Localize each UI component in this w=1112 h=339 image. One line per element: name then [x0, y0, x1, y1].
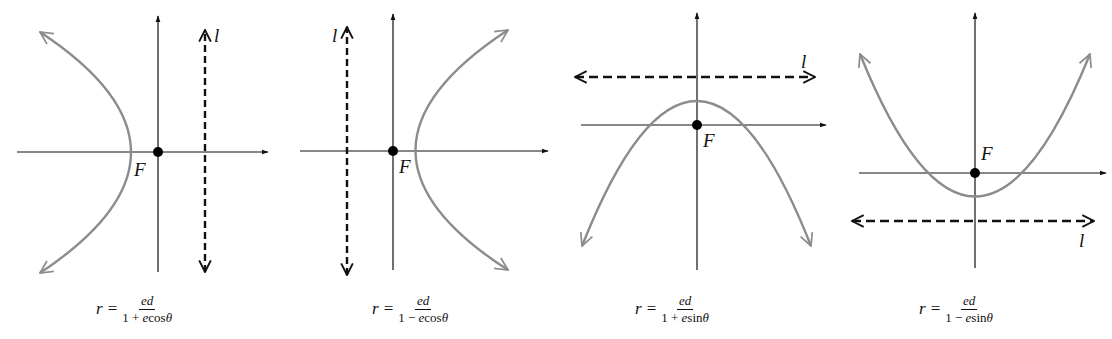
den-function: cos [424, 310, 441, 325]
panel-3: F l [575, 13, 826, 270]
formula-denominator: 1 + ecosθ [122, 310, 172, 325]
formula-lhs: r [372, 299, 379, 319]
den-constant: 1 − [398, 310, 418, 325]
directrix-label: l [214, 25, 219, 46]
formula-equals: = [931, 299, 941, 319]
formula-numerator: ed [677, 294, 693, 310]
formula-equals: = [384, 299, 394, 319]
formula-lhs: r [96, 299, 103, 319]
parabola-curve [416, 30, 509, 270]
focus-label: F [980, 143, 993, 164]
den-constant: 1 − [945, 310, 965, 325]
directrix-label: l [801, 51, 806, 72]
focus-point [388, 146, 398, 156]
den-angle: θ [703, 310, 709, 325]
den-function: cos [148, 310, 165, 325]
formula-lhs: r [919, 299, 926, 319]
formula-panel-2: r = ed 1 − ecosθ [372, 294, 448, 324]
focus-label: F [702, 130, 715, 151]
den-function: sin [971, 310, 986, 325]
panel-2: F l [300, 14, 548, 275]
formula-panel-4: r = ed 1 − esinθ [919, 294, 993, 324]
formula-denominator: 1 + esinθ [661, 310, 709, 325]
formula-equals: = [647, 299, 657, 319]
formula-fraction: ed 1 + ecosθ [122, 294, 172, 324]
den-constant: 1 + [122, 310, 142, 325]
den-angle: θ [442, 310, 448, 325]
focus-label: F [398, 156, 411, 177]
formula-panel-3: r = ed 1 + esinθ [635, 294, 709, 324]
formula-numerator: ed [139, 294, 155, 310]
formula-fraction: ed 1 − ecosθ [398, 294, 448, 324]
den-constant: 1 + [661, 310, 681, 325]
formula-lhs: r [635, 299, 642, 319]
panel-1: F l [17, 16, 268, 273]
formula-equals: = [108, 299, 118, 319]
formula-fraction: ed 1 + esinθ [661, 294, 709, 324]
den-angle: θ [166, 310, 172, 325]
formula-panel-1: r = ed 1 + ecosθ [96, 294, 172, 324]
directrix-label: l [332, 25, 337, 46]
den-angle: θ [987, 310, 993, 325]
focus-point [153, 147, 163, 157]
directrix-label: l [1079, 230, 1084, 251]
den-function: sin [687, 310, 702, 325]
focus-label: F [133, 159, 146, 180]
formula-denominator: 1 − esinθ [945, 310, 993, 325]
formula-denominator: 1 − ecosθ [398, 310, 448, 325]
panel-4: F l [852, 13, 1106, 268]
conic-parabola-figure: F l F l F l F l [0, 0, 1112, 339]
formula-numerator: ed [961, 294, 977, 310]
focus-point [970, 168, 980, 178]
focus-point [692, 120, 702, 130]
formula-fraction: ed 1 − esinθ [945, 294, 993, 324]
formula-numerator: ed [415, 294, 431, 310]
